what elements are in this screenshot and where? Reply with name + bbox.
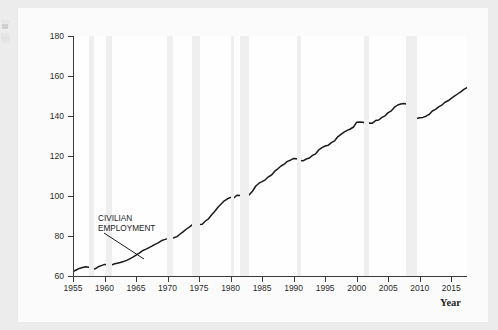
y-axis-tick bbox=[68, 116, 73, 117]
x-axis-tick bbox=[294, 277, 295, 282]
x-axis-tick-label: 1955 bbox=[57, 283, 89, 293]
civilian-employment-annotation: CIVILIAN EMPLOYMENT bbox=[98, 214, 155, 233]
y-axis-tick-label: 140 bbox=[40, 112, 64, 120]
x-axis-tick bbox=[420, 277, 421, 282]
annotation-leader-line bbox=[100, 232, 146, 260]
x-axis-tick-label: 1965 bbox=[120, 283, 152, 293]
y-axis-tick-label: 80 bbox=[40, 232, 64, 240]
x-axis-tick-label: 2005 bbox=[372, 283, 404, 293]
x-axis-tick bbox=[451, 277, 452, 282]
x-axis-tick bbox=[325, 277, 326, 282]
y-axis-line bbox=[73, 36, 74, 277]
recession-band bbox=[364, 36, 368, 276]
x-axis-tick bbox=[388, 277, 389, 282]
y-axis-tick bbox=[68, 156, 73, 157]
x-axis-tick bbox=[168, 277, 169, 282]
recession-band bbox=[240, 36, 249, 276]
x-axis-tick bbox=[136, 277, 137, 282]
y-axis-tick-label: 100 bbox=[40, 192, 64, 200]
y-axis-tick bbox=[68, 196, 73, 197]
x-axis-tick-label: 2000 bbox=[341, 283, 373, 293]
y-axis-tick bbox=[68, 36, 73, 37]
y-axis-tick-label: 160 bbox=[40, 72, 64, 80]
recession-band bbox=[231, 36, 235, 276]
x-axis-tick-label: 1990 bbox=[278, 283, 310, 293]
y-axis-tick-label: 120 bbox=[40, 152, 64, 160]
x-axis-line bbox=[73, 276, 467, 277]
x-axis-title: Year bbox=[440, 297, 461, 308]
x-axis-tick-label: 2015 bbox=[435, 283, 467, 293]
recession-band bbox=[167, 36, 173, 276]
x-axis-tick-label: 1975 bbox=[183, 283, 215, 293]
x-axis-tick-label: 2010 bbox=[404, 283, 436, 293]
x-axis-tick bbox=[262, 277, 263, 282]
y-axis-tick-label: 60 bbox=[40, 272, 64, 280]
x-axis-tick-label: 1980 bbox=[215, 283, 247, 293]
x-axis-tick-label: 1985 bbox=[246, 283, 278, 293]
y-axis-tick bbox=[68, 236, 73, 237]
chart-figure: 6080100120140160180 19551960196519701975… bbox=[0, 0, 498, 330]
x-axis-tick-label: 1970 bbox=[152, 283, 184, 293]
x-axis-tick bbox=[199, 277, 200, 282]
x-axis-tick bbox=[105, 277, 106, 282]
x-axis-tick-label: 1995 bbox=[309, 283, 341, 293]
recession-band bbox=[406, 36, 416, 276]
recession-band bbox=[297, 36, 301, 276]
recession-band bbox=[192, 36, 200, 276]
recession-band bbox=[89, 36, 94, 276]
y-axis-tick-label: 180 bbox=[40, 32, 64, 40]
y-axis-tick bbox=[68, 76, 73, 77]
x-axis-tick bbox=[231, 277, 232, 282]
x-axis-tick-label: 1960 bbox=[89, 283, 121, 293]
x-axis-tick bbox=[357, 277, 358, 282]
annotation-line1: CIVILIAN bbox=[98, 214, 132, 223]
x-axis-tick bbox=[73, 277, 74, 282]
